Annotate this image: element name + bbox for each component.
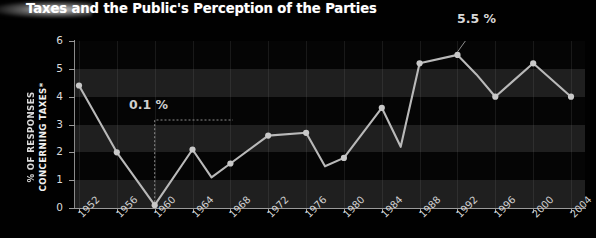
y-axis-label-line2: CONCERNING TAXES* — [38, 62, 50, 212]
y-tick-label: 6 — [43, 34, 63, 46]
annotation-leader-line — [458, 41, 475, 52]
data-point-marker[interactable] — [114, 149, 120, 155]
y-tick — [69, 152, 75, 153]
data-series-line — [75, 41, 585, 208]
y-tick — [69, 180, 75, 181]
annotation-leader-line — [155, 120, 233, 202]
plot-region — [75, 41, 585, 208]
y-tick — [69, 41, 75, 42]
data-point-marker[interactable] — [189, 146, 195, 152]
y-tick-label: 5 — [43, 62, 63, 74]
data-point-marker[interactable] — [265, 133, 271, 139]
data-point-marker[interactable] — [227, 160, 233, 166]
data-point-marker[interactable] — [303, 130, 309, 136]
annotation-high: 5.5 % — [457, 11, 496, 26]
data-point-marker[interactable] — [530, 60, 536, 66]
chart-root: Taxes and the Public's Perception of the… — [0, 0, 596, 238]
y-tick-label: 1 — [43, 173, 63, 185]
y-tick-label: 2 — [43, 145, 63, 157]
y-axis-label: % OF RESPONSES CONCERNING TAXES* — [26, 0, 54, 62]
y-tick-label: 4 — [43, 90, 63, 102]
data-point-marker[interactable] — [341, 155, 347, 161]
data-point-marker[interactable] — [492, 94, 498, 100]
y-tick — [69, 125, 75, 126]
y-tick-label: 3 — [43, 118, 63, 130]
series-line — [79, 55, 571, 205]
y-tick-label: 0 — [43, 201, 63, 213]
data-point-marker[interactable] — [379, 105, 385, 111]
y-tick — [69, 208, 75, 209]
annotation-low: 0.1 % — [129, 97, 168, 112]
data-point-marker[interactable] — [417, 60, 423, 66]
y-axis-label-line1: % OF RESPONSES — [26, 62, 38, 212]
y-tick — [69, 69, 75, 70]
data-point-marker[interactable] — [76, 82, 82, 88]
y-tick — [69, 97, 75, 98]
data-point-marker[interactable] — [568, 94, 574, 100]
chart-area: 0123456 19521956196019641968197219761980… — [0, 0, 596, 238]
data-point-marker[interactable] — [454, 52, 460, 58]
